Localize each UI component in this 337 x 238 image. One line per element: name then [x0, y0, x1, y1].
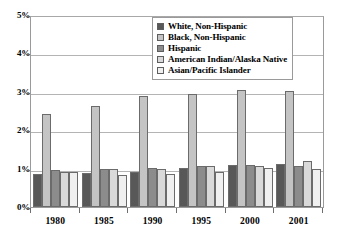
x-tick-mark — [30, 208, 31, 213]
bar-group — [80, 17, 129, 207]
legend-item: American Indian/Alaska Native — [157, 54, 287, 65]
legend-swatch-icon — [157, 67, 164, 74]
y-axis: 5%4%3%2%1%0% — [0, 0, 30, 238]
bar — [179, 168, 188, 207]
x-axis-label-1995: 1995 — [177, 216, 226, 226]
x-axis-label-2000: 2000 — [226, 216, 275, 226]
bar — [197, 166, 206, 207]
legend-label: Asian/Pacific Islander — [168, 65, 251, 76]
bar — [188, 94, 197, 207]
x-tick-mark — [176, 208, 177, 213]
x-axis-label-1980: 1980 — [31, 216, 80, 226]
bar — [255, 166, 264, 207]
bar — [60, 172, 69, 207]
x-tick-mark — [225, 208, 226, 213]
bar — [100, 169, 109, 207]
x-tick-mark — [273, 208, 274, 213]
x-axis-label-1985: 1985 — [80, 216, 129, 226]
bar — [69, 172, 78, 207]
legend-label: American Indian/Alaska Native — [168, 54, 287, 65]
bar — [157, 169, 166, 207]
bar — [228, 165, 237, 207]
x-axis-label-1990: 1990 — [128, 216, 177, 226]
bar — [109, 169, 118, 207]
legend-label: White, Non-Hispanic — [168, 21, 247, 32]
legend-swatch-icon — [157, 45, 164, 52]
bar-chart: 5%4%3%2%1%0% 198019851990199520002001 Wh… — [0, 0, 337, 238]
bar — [264, 168, 273, 207]
bar — [303, 161, 312, 207]
legend-item: Hispanic — [157, 43, 287, 54]
bar — [51, 170, 60, 207]
bar — [82, 173, 91, 207]
legend-label: Hispanic — [168, 43, 201, 54]
x-tick-mark — [322, 208, 323, 213]
bar — [118, 175, 127, 207]
bar — [215, 172, 224, 207]
legend-item: White, Non-Hispanic — [157, 21, 287, 32]
bar-group — [31, 17, 80, 207]
bar — [246, 165, 255, 207]
bar — [206, 166, 215, 207]
bar — [91, 106, 100, 208]
bar — [130, 172, 139, 207]
x-tick-mark — [127, 208, 128, 213]
bar — [237, 90, 246, 207]
legend-item: Asian/Pacific Islander — [157, 65, 287, 76]
chart-legend: White, Non-HispanicBlack, Non-HispanicHi… — [152, 17, 293, 80]
bar — [312, 169, 321, 207]
legend-label: Black, Non-Hispanic — [168, 32, 246, 43]
legend-swatch-icon — [157, 23, 164, 30]
bar — [148, 168, 157, 207]
bar — [166, 174, 175, 207]
bar — [276, 164, 285, 207]
legend-swatch-icon — [157, 34, 164, 41]
bar — [139, 96, 148, 207]
bar — [33, 174, 42, 207]
legend-item: Black, Non-Hispanic — [157, 32, 287, 43]
x-axis-labels: 198019851990199520002001 — [31, 216, 323, 226]
x-axis-ticks — [30, 208, 324, 214]
x-axis-label-2001: 2001 — [274, 216, 323, 226]
bar — [294, 166, 303, 207]
x-tick-mark — [79, 208, 80, 213]
bar — [285, 91, 294, 207]
legend-swatch-icon — [157, 56, 164, 63]
bar — [42, 114, 51, 207]
